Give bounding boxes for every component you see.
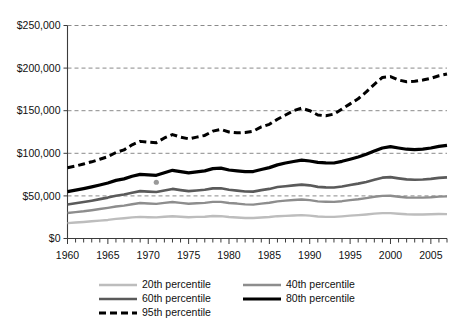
y-tick-labels-group: $0$50,000$100,000$150,000$200,000$250,00… xyxy=(17,19,61,244)
y-axis-tick-label: $50,000 xyxy=(23,190,61,202)
x-axis-tick-label: 1975 xyxy=(177,249,201,261)
x-axis-tick-label: 1980 xyxy=(217,249,241,261)
y-axis-tick-label: $250,000 xyxy=(17,19,61,31)
series-line-60th-percentile xyxy=(68,177,448,204)
legend-group[interactable]: 20th percentile40th percentile60th perce… xyxy=(99,278,355,318)
legend-item-80th-percentile[interactable]: 80th percentile xyxy=(243,292,355,304)
x-axis-tick-label: 1985 xyxy=(258,249,282,261)
legend-label: 20th percentile xyxy=(142,278,211,290)
legend-label: 80th percentile xyxy=(286,292,355,304)
markers-group xyxy=(154,180,159,185)
legend-item-40th-percentile[interactable]: 40th percentile xyxy=(243,278,355,290)
series-line-20th-percentile xyxy=(68,213,448,223)
x-axis-tick-label: 1970 xyxy=(137,249,161,261)
y-axis-tick-label: $200,000 xyxy=(17,62,61,74)
y-axis-tick-label: $150,000 xyxy=(17,104,61,116)
legend-item-20th-percentile[interactable]: 20th percentile xyxy=(99,278,211,290)
legend-item-95th-percentile[interactable]: 95th percentile xyxy=(99,306,211,318)
x-axis-tick-label: 2005 xyxy=(419,249,443,261)
x-axis-tick-label: 2000 xyxy=(379,249,403,261)
legend-label: 95th percentile xyxy=(142,306,211,318)
legend-item-60th-percentile[interactable]: 60th percentile xyxy=(99,292,211,304)
y-axis-group xyxy=(64,26,68,239)
series-line-80th-percentile xyxy=(68,145,448,191)
chart-canvas: $0$50,000$100,000$150,000$200,000$250,00… xyxy=(0,0,458,328)
legend-label: 40th percentile xyxy=(286,278,355,290)
x-axis-tick-label: 1965 xyxy=(96,249,120,261)
y-axis-tick-label: $100,000 xyxy=(17,147,61,159)
x-axis-group xyxy=(68,239,448,245)
legend-label: 60th percentile xyxy=(142,292,211,304)
x-axis-tick-label: 1960 xyxy=(56,249,80,261)
x-tick-labels-group: 1960196519701975198019851990199520002005 xyxy=(56,249,443,261)
x-axis-tick-label: 1995 xyxy=(338,249,362,261)
series-group xyxy=(68,74,448,223)
y-axis-tick-label: $0 xyxy=(49,232,61,244)
data-point-1971 xyxy=(154,180,159,185)
series-line-40th-percentile xyxy=(68,196,448,213)
x-axis-tick-label: 1990 xyxy=(298,249,322,261)
income-percentile-chart: $0$50,000$100,000$150,000$200,000$250,00… xyxy=(0,0,458,328)
